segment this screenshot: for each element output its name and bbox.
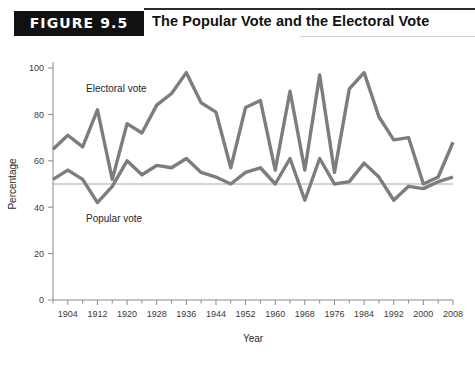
header-rule [144, 8, 475, 10]
svg-text:0: 0 [39, 295, 44, 305]
svg-text:1952: 1952 [236, 309, 256, 319]
svg-text:1936: 1936 [176, 309, 196, 319]
x-axis-title: Year [243, 333, 264, 344]
series-label-electoral-vote: Electoral vote [86, 83, 147, 94]
svg-text:2008: 2008 [443, 309, 463, 319]
svg-text:1992: 1992 [384, 309, 404, 319]
svg-text:1912: 1912 [87, 309, 107, 319]
header-rule-secondary [300, 36, 475, 37]
svg-text:80: 80 [34, 110, 44, 120]
figure-number-label: FIGURE 9.5 [14, 11, 144, 36]
svg-text:60: 60 [34, 156, 44, 166]
x-axis-ticks: 1904191219201928193619441952196019681976… [53, 300, 463, 319]
svg-text:40: 40 [34, 203, 44, 213]
figure-number-banner: FIGURE 9.5 [14, 11, 144, 36]
y-axis-ticks: 020406080100 [29, 63, 53, 305]
chart-plot-area: 020406080100 190419121920192819361944195… [0, 46, 475, 365]
svg-text:1920: 1920 [117, 309, 137, 319]
svg-text:1944: 1944 [206, 309, 226, 319]
svg-text:1984: 1984 [354, 309, 374, 319]
svg-text:1968: 1968 [295, 309, 315, 319]
y-axis-title: Percentage [7, 158, 18, 210]
svg-text:100: 100 [29, 63, 44, 73]
svg-text:1904: 1904 [58, 309, 78, 319]
figure-header: FIGURE 9.5 The Popular Vote and the Elec… [0, 0, 475, 46]
svg-text:2000: 2000 [413, 309, 433, 319]
svg-text:1928: 1928 [147, 309, 167, 319]
line-chart: 020406080100 190419121920192819361944195… [0, 46, 475, 365]
series-label-popular-vote: Popular vote [86, 213, 143, 224]
svg-text:1960: 1960 [265, 309, 285, 319]
svg-text:1976: 1976 [324, 309, 344, 319]
figure-title: The Popular Vote and the Electoral Vote [152, 13, 429, 29]
svg-text:20: 20 [34, 249, 44, 259]
